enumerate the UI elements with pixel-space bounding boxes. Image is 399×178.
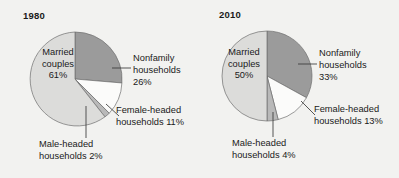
callout-female-headed-2010: Female-headed households 13% (314, 104, 383, 128)
chart-panel-2010: 2010 Married couples 50% Nonfamily (199, 0, 398, 178)
callout-line-1: Nonfamily (133, 53, 181, 65)
household-composition-figure: 1980 Married couples 61% Nonfamily (0, 0, 399, 178)
callout-male-headed-1980: Male-headed households 2% (39, 139, 103, 163)
leader-line-female-headed-2010 (301, 101, 315, 115)
center-label-line-2: couples (216, 59, 272, 71)
chart-panel-1980: 1980 Married couples 61% Nonfamily (0, 0, 199, 178)
callout-line-1: Male-headed (39, 139, 103, 151)
center-label-line-2: couples (30, 59, 86, 71)
pie-chart-2010 (199, 0, 398, 178)
center-label-line-1: Married (30, 47, 86, 59)
center-label-line-3: 61% (30, 70, 86, 82)
callout-female-headed-1980: Female-headed households 11% (116, 105, 184, 129)
center-label-line-3: 50% (216, 70, 272, 82)
pie-center-label-2010: Married couples 50% (216, 47, 272, 82)
callout-line-2: households 2% (39, 151, 103, 163)
callout-line-3: 33% (319, 72, 367, 84)
center-label-line-1: Married (216, 47, 272, 59)
callout-line-2: households (319, 60, 367, 72)
callout-line-2: households 4% (232, 150, 296, 162)
pie-center-label-1980: Married couples 61% (30, 47, 86, 82)
callout-line-2: households (133, 65, 181, 77)
callout-line-1: Female-headed (314, 104, 383, 116)
callout-line-1: Male-headed (232, 138, 296, 150)
callout-line-1: Nonfamily (319, 48, 367, 60)
callout-line-2: households 13% (314, 116, 383, 128)
callout-line-1: Female-headed (116, 105, 184, 117)
callout-line-2: households 11% (116, 117, 184, 129)
callout-male-headed-2010: Male-headed households 4% (232, 138, 296, 162)
callout-nonfamily-1980: Nonfamily households 26% (133, 53, 181, 88)
callout-nonfamily-2010: Nonfamily households 33% (319, 48, 367, 83)
callout-line-3: 26% (133, 77, 181, 89)
